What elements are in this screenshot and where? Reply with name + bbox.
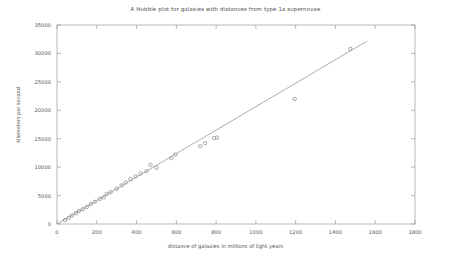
svg-text:20000: 20000 <box>34 107 51 113</box>
svg-text:400: 400 <box>132 229 142 235</box>
svg-text:1000: 1000 <box>249 229 262 235</box>
svg-text:0: 0 <box>48 221 51 227</box>
svg-text:1400: 1400 <box>329 229 342 235</box>
chart-canvas: 05000100001500020000250003000035000 0200… <box>0 0 451 264</box>
svg-text:15000: 15000 <box>34 136 51 142</box>
svg-text:800: 800 <box>211 229 221 235</box>
svg-text:30000: 30000 <box>34 50 51 56</box>
y-axis-ticks: 05000100001500020000250003000035000 <box>34 22 415 227</box>
svg-text:5000: 5000 <box>38 193 51 199</box>
svg-text:1600: 1600 <box>369 229 382 235</box>
svg-text:35000: 35000 <box>34 22 51 28</box>
svg-text:25000: 25000 <box>34 79 51 85</box>
x-axis-ticks: 020040060080010001200140016001800 <box>55 25 421 235</box>
regression-line <box>57 41 367 224</box>
svg-text:0: 0 <box>55 229 58 235</box>
svg-text:10000: 10000 <box>34 164 51 170</box>
svg-text:1800: 1800 <box>408 229 421 235</box>
svg-text:1200: 1200 <box>289 229 302 235</box>
data-points <box>63 47 352 222</box>
svg-text:200: 200 <box>92 229 102 235</box>
hubble-plot: A Hubble plot for galaxies with distance… <box>0 0 451 264</box>
svg-text:600: 600 <box>171 229 181 235</box>
